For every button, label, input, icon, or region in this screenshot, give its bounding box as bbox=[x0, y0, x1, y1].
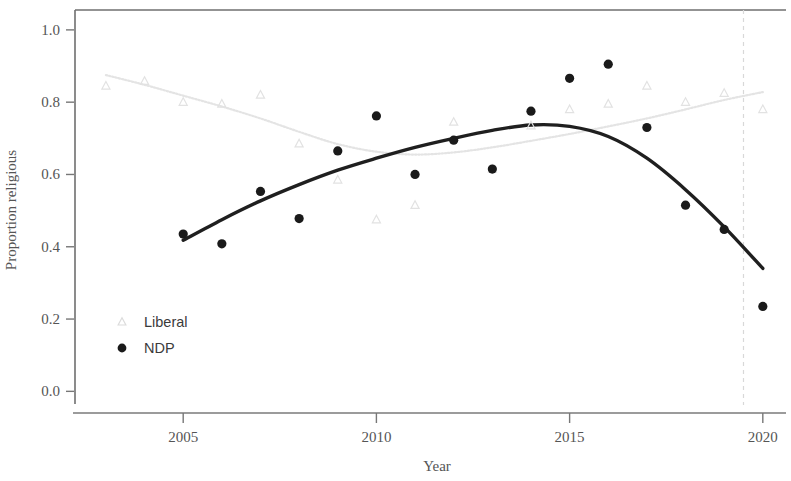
legend-marker-circle bbox=[118, 344, 127, 353]
data-point bbox=[256, 187, 265, 196]
data-point bbox=[410, 170, 419, 179]
y-tick-label: 0.6 bbox=[41, 166, 60, 182]
data-point bbox=[488, 164, 497, 173]
x-tick-label: 2005 bbox=[168, 429, 198, 445]
data-point bbox=[217, 239, 226, 248]
data-point bbox=[604, 60, 613, 69]
data-point bbox=[758, 302, 767, 311]
data-point bbox=[526, 107, 535, 116]
x-tick-label: 2015 bbox=[555, 429, 585, 445]
y-tick-label: 1.0 bbox=[41, 22, 60, 38]
data-point bbox=[179, 230, 188, 239]
y-tick-label: 0.4 bbox=[41, 239, 60, 255]
legend-label: NDP bbox=[144, 340, 175, 356]
y-tick-label: 0.0 bbox=[41, 383, 60, 399]
data-point bbox=[449, 136, 458, 145]
x-tick-label: 2010 bbox=[361, 429, 391, 445]
chart-figure: 0.00.20.40.60.81.0 2005201020152020 Year… bbox=[0, 0, 791, 481]
data-point bbox=[565, 74, 574, 83]
data-point bbox=[372, 111, 381, 120]
legend-label: Liberal bbox=[144, 314, 188, 330]
scatter-plot-canvas: 0.00.20.40.60.81.0 2005201020152020 Year… bbox=[0, 0, 791, 481]
data-point bbox=[642, 123, 651, 132]
data-point bbox=[295, 214, 304, 223]
y-axis-title: Proportion religious bbox=[3, 150, 19, 271]
y-tick-label: 0.8 bbox=[41, 94, 60, 110]
data-point bbox=[333, 146, 342, 155]
x-tick-label: 2020 bbox=[748, 429, 778, 445]
x-axis-title: Year bbox=[423, 458, 451, 474]
data-point bbox=[681, 201, 690, 210]
y-tick-label: 0.2 bbox=[41, 311, 60, 327]
figure-background bbox=[0, 0, 791, 481]
data-point bbox=[720, 225, 729, 234]
